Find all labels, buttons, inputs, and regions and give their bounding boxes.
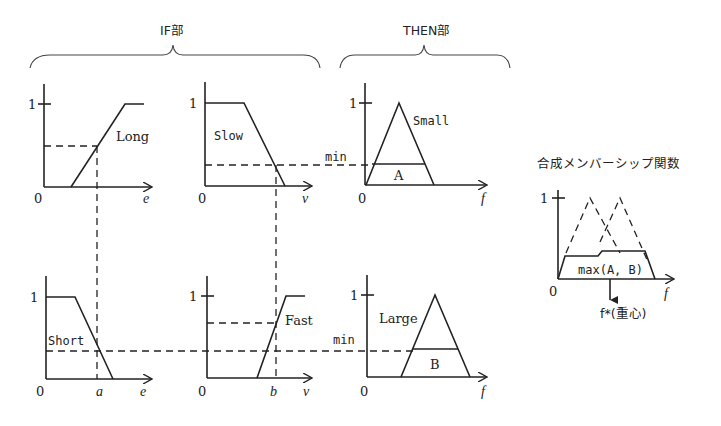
short-label: Short [48, 334, 84, 348]
axis-f-label: f [481, 384, 487, 399]
panel-small: 1 0 Small A min f [325, 83, 487, 206]
origin-label: 0 [34, 191, 42, 206]
fuzzy-inference-diagram: IF部 THEN部 1 0 Long e 1 0 Slow v 1 0 Smal… [0, 0, 721, 426]
small-label: Small [413, 114, 449, 128]
if-part-header: IF部 [160, 23, 184, 38]
y-tick-1: 1 [189, 96, 197, 111]
axis-e-label: e [140, 384, 146, 399]
fast-label: Fast [285, 313, 314, 328]
origin-label: 0 [358, 191, 366, 206]
then-part-header: THEN部 [402, 23, 450, 38]
composite-title: 合成メンバーシップ関数 [537, 156, 680, 171]
then-part-brace: THEN部 [340, 23, 510, 68]
panel-long: 1 0 Long e [28, 84, 152, 206]
centroid-label: f*(重心) [600, 306, 646, 321]
origin-label: 0 [198, 191, 206, 206]
axis-v-label: v [303, 384, 310, 399]
long-label: Long [116, 129, 149, 144]
y-tick-1: 1 [540, 191, 548, 206]
origin-label: 0 [36, 384, 44, 399]
panel-composite: 合成メンバーシップ関数 1 0 max(A, B) f f*(重心) [537, 156, 680, 321]
y-tick-1: 1 [349, 96, 357, 111]
if-part-brace: IF部 [30, 23, 320, 68]
panel-slow: 1 0 Slow v [189, 82, 312, 206]
axis-v-label: v [302, 191, 309, 206]
origin-label: 0 [360, 384, 368, 399]
min-label-top: min [325, 150, 347, 164]
y-tick-1: 1 [189, 289, 197, 304]
input-b-label: b [270, 384, 277, 399]
y-tick-1: 1 [350, 288, 358, 303]
origin-label: 0 [549, 284, 557, 299]
panel-large: 1 0 Large B min f [333, 275, 487, 399]
slow-label: Slow [214, 129, 244, 143]
input-a-label: a [96, 384, 103, 399]
panel-short: 1 0 Short a e [30, 276, 152, 399]
y-tick-1: 1 [30, 290, 38, 305]
axis-f-label: f [664, 286, 670, 301]
y-tick-1: 1 [28, 97, 36, 112]
panel-fast: 1 0 Fast b v [189, 276, 314, 399]
axis-e-label: e [143, 191, 149, 206]
axis-f-label: f [481, 191, 487, 206]
region-b-label: B [430, 357, 440, 372]
origin-label: 0 [198, 384, 206, 399]
region-a-label: A [393, 168, 404, 183]
max-ab-label: max(A, B) [578, 263, 643, 277]
large-label: Large [379, 311, 418, 326]
min-label-bottom: min [333, 333, 355, 347]
